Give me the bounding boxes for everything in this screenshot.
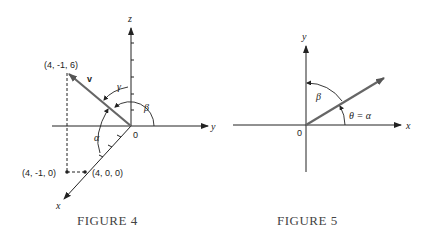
point-label-proj: (4, -1, 0) bbox=[22, 168, 56, 178]
z-axis-label: z bbox=[127, 13, 132, 24]
x-axis-ticks bbox=[99, 135, 121, 157]
alpha-arc bbox=[98, 109, 108, 153]
theta-arc bbox=[340, 106, 345, 125]
gamma-label: γ bbox=[117, 81, 122, 92]
theta-label: θ = α bbox=[349, 110, 372, 121]
beta-label: β bbox=[315, 91, 321, 102]
figure-4: z y x v γ β α 0 (4, -1, 6) (4, -1, bbox=[22, 13, 216, 228]
x-axis-label: x bbox=[55, 200, 61, 211]
figure-5-caption: FIGURE 5 bbox=[277, 213, 338, 228]
origin-label: 0 bbox=[133, 130, 138, 140]
point-label-on-x: (4, 0, 0) bbox=[92, 168, 123, 178]
y-axis-label: y bbox=[301, 31, 307, 42]
point-label-tip: (4, -1, 6) bbox=[44, 60, 78, 70]
beta-label: β bbox=[143, 102, 149, 113]
point-4-0-0 bbox=[83, 170, 87, 174]
origin-label: 0 bbox=[297, 128, 302, 138]
figure-4-caption: FIGURE 4 bbox=[77, 213, 138, 228]
vector-v bbox=[69, 74, 131, 126]
beta-arc bbox=[307, 83, 342, 101]
figures-canvas: z y x v γ β α 0 (4, -1, 6) (4, -1, bbox=[0, 0, 428, 231]
alpha-label: α bbox=[94, 132, 100, 143]
figure-5: y x β θ = α 0 FIGURE 5 bbox=[233, 31, 411, 228]
x-axis-label: x bbox=[405, 120, 411, 131]
vector-v-label: v bbox=[87, 74, 92, 84]
y-axis-label: y bbox=[210, 121, 216, 132]
gamma-arc bbox=[104, 87, 128, 100]
point-4-minus1-0 bbox=[65, 170, 69, 174]
